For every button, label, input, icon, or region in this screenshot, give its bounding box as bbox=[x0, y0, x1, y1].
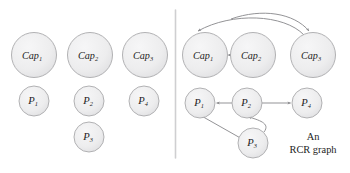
node-cap3-left: Cap3 bbox=[123, 33, 168, 78]
node-p1-left: P1 bbox=[19, 86, 49, 116]
right-panel-rcr-graph: Cap1 Cap2 Cap3 P1 bbox=[183, 13, 338, 158]
node-cap1-right: Cap1 bbox=[183, 33, 228, 78]
node-p1-right: P1 bbox=[185, 88, 215, 118]
rcr-graph-figure: Cap1 Cap2 Cap3 P1 bbox=[0, 0, 350, 173]
node-cap3-right: Cap3 bbox=[291, 33, 336, 78]
node-p3-right: P3 bbox=[238, 128, 268, 158]
node-p2-left: P2 bbox=[74, 86, 104, 116]
node-cap2-right: Cap2 bbox=[231, 33, 276, 78]
node-p4-left: P4 bbox=[129, 86, 159, 116]
figure-canvas: Cap1 Cap2 Cap3 P1 bbox=[0, 0, 350, 173]
left-panel-nodes-only: Cap1 Cap2 Cap3 P1 bbox=[12, 33, 168, 153]
node-cap1-left: Cap1 bbox=[12, 33, 57, 78]
node-p2-right: P2 bbox=[232, 88, 262, 118]
node-cap2-left: Cap2 bbox=[68, 33, 113, 78]
edge-p3-to-p1 bbox=[201, 115, 240, 137]
edge-cap3-inbound-arc bbox=[231, 13, 309, 31]
node-p3-left: P3 bbox=[74, 122, 104, 152]
caption-line-2: RCR graph bbox=[289, 144, 337, 155]
node-p4-right: P4 bbox=[292, 88, 322, 118]
caption-line-1: An bbox=[307, 131, 321, 142]
